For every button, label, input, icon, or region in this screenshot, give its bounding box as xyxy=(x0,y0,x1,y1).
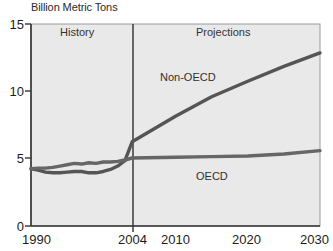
y-tick-label-15: 15 xyxy=(2,17,24,32)
annotation-history: History xyxy=(60,26,94,38)
annotation-projections: Projections xyxy=(196,26,250,38)
y-axis-ticks xyxy=(25,24,31,226)
chart-figure: Billion Metric Tons 15 10 5 0 1990 2004 … xyxy=(0,0,333,251)
x-tick-label-2004: 2004 xyxy=(118,232,147,247)
annotation-oecd: OECD xyxy=(196,170,228,182)
annotation-non-oecd: Non-OECD xyxy=(160,71,216,83)
plot-background xyxy=(31,24,320,226)
x-tick-label-2010: 2010 xyxy=(161,232,190,247)
y-tick-label-10: 10 xyxy=(2,84,24,99)
chart-plot-area xyxy=(0,0,333,251)
x-tick-label-2020: 2020 xyxy=(232,232,261,247)
y-tick-label-5: 5 xyxy=(2,151,24,166)
x-tick-label-1990: 1990 xyxy=(22,232,51,247)
x-tick-label-2030: 2030 xyxy=(300,232,329,247)
y-tick-label-0: 0 xyxy=(2,219,24,234)
